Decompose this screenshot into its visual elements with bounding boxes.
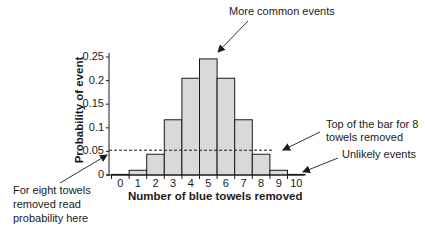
annotation-top-bar-8-line1: Top of the bar for 8 xyxy=(326,118,418,131)
y-tick-label: 0.1 xyxy=(70,121,104,133)
bar-1 xyxy=(129,170,147,175)
bar-7 xyxy=(235,120,253,175)
bar-6 xyxy=(217,78,235,175)
y-tick-label: 0 xyxy=(70,168,104,180)
bar-8 xyxy=(252,154,270,175)
x-tick-label: 10 xyxy=(286,177,306,189)
y-tick-label: 0.05 xyxy=(70,144,104,156)
arrow-top-bar-8 xyxy=(283,132,320,150)
annotation-read-line1: For eight towels xyxy=(13,184,91,197)
y-tick-label: 0.15 xyxy=(70,97,104,109)
annotation-more-common: More common events xyxy=(229,5,335,18)
arrow-unlikely-events xyxy=(303,158,338,172)
annotation-read-line3: probability here xyxy=(13,212,88,225)
bar-3 xyxy=(164,120,182,175)
y-tick-label: 0.25 xyxy=(70,50,104,62)
bars xyxy=(112,59,306,175)
x-axis-title: Number of blue towels removed xyxy=(128,190,302,202)
annotation-top-bar-8-line2: towels removed xyxy=(326,131,403,144)
arrow-common-events xyxy=(218,21,248,52)
y-tick-label: 0.2 xyxy=(70,74,104,86)
annotation-unlikely: Unlikely events xyxy=(342,148,416,161)
annotation-read-line2: removed read xyxy=(13,198,81,211)
bar-5 xyxy=(200,59,218,175)
bar-2 xyxy=(147,154,165,175)
bar-4 xyxy=(182,78,200,175)
bar-9 xyxy=(270,170,288,175)
